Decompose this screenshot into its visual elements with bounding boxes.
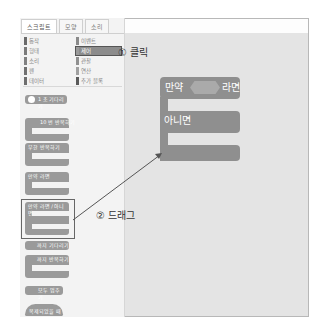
drag-arrow-icon <box>0 0 326 333</box>
annotation-step2: ② 드래그 <box>96 207 135 222</box>
